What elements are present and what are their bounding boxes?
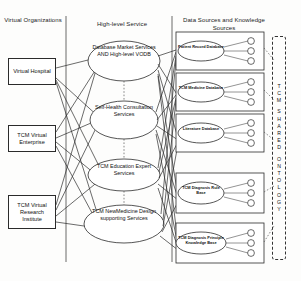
tcm-architecture-diagram: .ln { stroke:#2b2b2b; stroke-width:0.7; … [0, 0, 301, 281]
service-ellipse-database-market [88, 41, 160, 81]
vo-to-service-connectors [56, 58, 104, 228]
tcm-shared-ontology-strip: TCMSHAREDONTOLOGY [272, 36, 286, 260]
ontology-char: N [273, 163, 285, 170]
datasource-node [248, 250, 255, 257]
ontology-char: T [273, 170, 285, 177]
datasource-ellipse-literature [178, 123, 224, 143]
datasource-group-literature [176, 114, 264, 152]
vo-label: Virtual Hospital [13, 68, 51, 75]
datasource-node [248, 240, 255, 247]
ontology-char: A [273, 123, 285, 130]
ontology-char: O [273, 177, 285, 184]
datasource-group-diagnosis-rule [176, 173, 264, 213]
datasource-node [248, 120, 255, 127]
vo-box-virtual-hospital[interactable]: Virtual Hospital [8, 58, 56, 85]
vo-box-tcm-enterprise[interactable]: TCM Virtual Enterprise [8, 125, 56, 152]
datasource-node [248, 140, 255, 147]
datasource-node [248, 38, 255, 45]
datasource-node [248, 89, 255, 96]
service-ellipse-new-medicine [84, 205, 164, 243]
ontology-char: Y [273, 206, 285, 213]
datasource-group-diagnosis-principle [176, 223, 264, 263]
datasource-ellipse-patient-record [178, 41, 224, 61]
column-header-data-sources: Data Sources and Knowledge Sources [176, 17, 272, 32]
column-header-high-level-service: High-level Service [70, 21, 174, 29]
ontology-char: E [273, 137, 285, 144]
datasource-group-tcm-medicine [176, 73, 264, 111]
datasource-ellipse-diagnosis-rule [178, 182, 224, 204]
ontology-char: H [273, 116, 285, 123]
ontology-char: R [273, 130, 285, 137]
ontology-char: T [273, 83, 285, 90]
ontology-char: S [273, 108, 285, 115]
ontology-char: L [273, 184, 285, 191]
datasource-group-patient-record [176, 32, 264, 70]
ontology-char: O [273, 192, 285, 199]
vo-label: TCM Virtual Enterprise [10, 132, 54, 146]
datasource-node [248, 79, 255, 86]
datasource-node [248, 200, 255, 207]
service-ellipse-tcm-education [88, 159, 160, 191]
datasource-node [248, 48, 255, 55]
datasource-node [248, 180, 255, 187]
ontology-char: D [273, 144, 285, 151]
column-header-virtual-organizations: Virtual Organizations [4, 17, 62, 25]
datasource-ellipse-tcm-medicine [178, 82, 224, 102]
service-ellipse-self-health [90, 101, 158, 139]
vo-label: TCM Virtual Research Institute [10, 202, 54, 223]
ontology-char: O [273, 156, 285, 163]
ontology-char: C [273, 90, 285, 97]
ontology-char: G [273, 199, 285, 206]
datasource-node [248, 130, 255, 137]
datasource-node [248, 190, 255, 197]
datasource-node [248, 99, 255, 106]
datasource-ellipse-diagnosis-principle [176, 232, 226, 254]
datasource-node [248, 58, 255, 65]
datasource-node [248, 230, 255, 237]
ontology-char: M [273, 97, 285, 104]
vo-box-tcm-research[interactable]: TCM Virtual Research Institute [8, 195, 56, 229]
